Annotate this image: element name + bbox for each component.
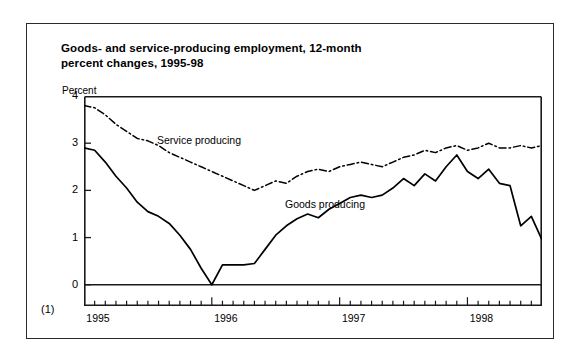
chart-title-line-1: Goods- and service-producing employment,…	[61, 41, 491, 56]
footnote-marker: (1)	[41, 303, 54, 315]
chart-title-line-2: percent changes, 1995-98	[61, 56, 491, 71]
data-series-lines	[84, 105, 542, 284]
y-tick-label: 3	[58, 136, 78, 148]
series-label-goods-producing: Goods producing	[285, 198, 365, 210]
chart-figure-border: Goods- and service-producing employment,…	[26, 23, 554, 339]
x-tick-label: 1995	[68, 312, 128, 324]
y-axis-ticks	[85, 96, 91, 285]
chart-title: Goods- and service-producing employment,…	[61, 41, 491, 71]
y-tick-label: 4	[58, 89, 78, 101]
x-axis-ticks	[84, 297, 542, 305]
series-line-goods-producing	[84, 148, 542, 285]
y-tick-label: 2	[58, 183, 78, 195]
x-tick-label: 1996	[196, 312, 256, 324]
x-tick-label: 1998	[451, 312, 511, 324]
y-tick-label: 0	[58, 278, 78, 290]
y-tick-label: 1	[58, 231, 78, 243]
x-tick-label: 1997	[324, 312, 384, 324]
series-line-service-producing	[84, 105, 542, 190]
series-label-service-producing: Service producing	[157, 134, 241, 146]
